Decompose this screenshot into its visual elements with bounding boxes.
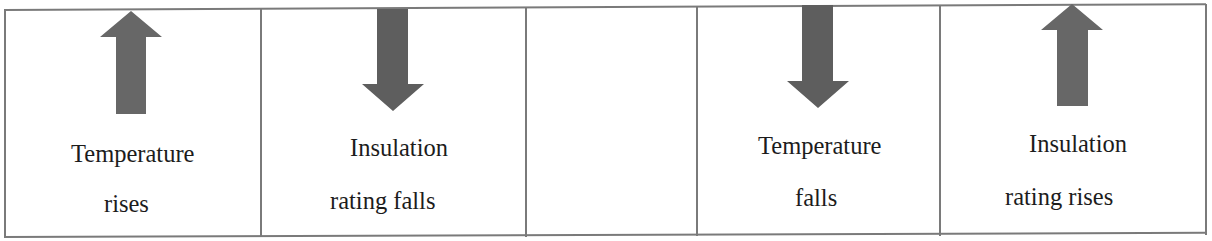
down-arrow-icon [787, 5, 849, 108]
label-line-2: rating rises [1005, 185, 1113, 210]
down-arrow-icon [362, 9, 424, 111]
label-line-2: rating falls [330, 189, 435, 214]
cell-insulation-rating-rises: Insulation rating rises [941, 8, 1205, 236]
label-line-1: Temperature [71, 142, 194, 167]
label-line-2: falls [795, 186, 837, 211]
label-line-2: rises [104, 192, 149, 217]
cell-empty [527, 8, 696, 236]
cell-insulation-rating-falls: Insulation rating falls [262, 8, 525, 236]
cell-temperature-rises: Temperature rises [6, 8, 260, 236]
cell-temperature-falls: Temperature falls [698, 8, 939, 236]
right-border [1205, 4, 1207, 235]
temperature-insulation-diagram: Temperature rises Insulation rating fall… [0, 0, 1212, 241]
up-arrow-icon [1041, 4, 1103, 106]
label-line-1: Insulation [350, 136, 448, 161]
label-line-1: Temperature [758, 134, 881, 159]
label-line-1: Insulation [1029, 132, 1127, 157]
up-arrow-icon [100, 11, 162, 114]
